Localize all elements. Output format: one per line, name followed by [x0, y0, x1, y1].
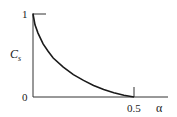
y-tick-label-1: 1 [22, 8, 28, 20]
chart: 1 0 0.5 α Cs [0, 0, 177, 117]
x-tick-label-0.5: 0.5 [127, 102, 141, 114]
data-curve [33, 14, 134, 97]
y-tick-label-0: 0 [22, 91, 28, 103]
y-axis-label-sub: s [18, 54, 21, 63]
y-axis-label: Cs [10, 47, 21, 63]
x-axis-label: α [156, 101, 163, 115]
